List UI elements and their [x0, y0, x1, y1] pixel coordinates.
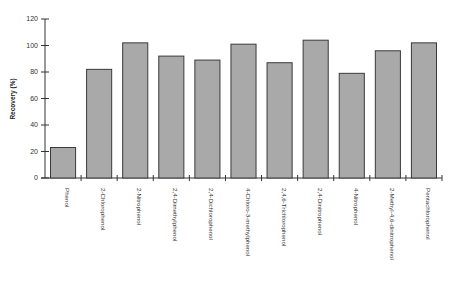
y-tick-label: 0: [34, 174, 38, 181]
bar: [51, 148, 76, 178]
category-label: 4-Chloro-3-methylphenol: [245, 188, 252, 256]
y-axis: 020406080100120: [26, 15, 49, 181]
bar-chart: 020406080100120 Phenol2-Chlorophenol2-Ni…: [0, 0, 455, 284]
category-label: 2,4-Dimethylphenol: [172, 188, 179, 241]
y-tick-label: 40: [30, 121, 38, 128]
bar: [303, 40, 328, 178]
category-label: 2-Methyl-4,6-dinitrophenol: [389, 188, 396, 260]
category-label: Pentachlorophenol: [425, 188, 432, 240]
bar: [267, 63, 292, 178]
y-tick-label: 20: [30, 148, 38, 155]
category-label: 2,4,6-Trichlorophenol: [281, 188, 288, 246]
category-label: 2-Chlorophenol: [100, 188, 107, 230]
bar: [411, 43, 436, 178]
bars: [51, 40, 437, 178]
bar: [231, 44, 256, 178]
bar: [375, 51, 400, 178]
category-label: 4-Nitrophenol: [353, 188, 360, 225]
category-label: Phenol: [64, 188, 71, 207]
category-label: 2,4-Dinitrophenol: [317, 188, 324, 235]
bar: [195, 60, 220, 178]
y-axis-label: Recovery (%): [9, 78, 17, 119]
bar: [123, 43, 148, 178]
bar: [159, 56, 184, 178]
bar: [339, 73, 364, 178]
y-tick-label: 80: [30, 68, 38, 75]
y-tick-label: 100: [26, 42, 38, 49]
y-tick-label: 60: [30, 95, 38, 102]
category-label: 2,4-Dichlorophenol: [208, 188, 215, 240]
category-label: 2-Nitrophenol: [136, 188, 143, 225]
y-tick-label: 120: [26, 15, 38, 22]
category-labels: Phenol2-Chlorophenol2-Nitrophenol2,4-Dim…: [64, 188, 432, 260]
bar: [87, 69, 112, 178]
